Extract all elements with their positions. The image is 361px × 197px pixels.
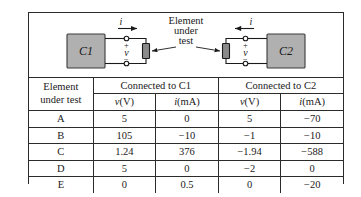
header-unit-c1-current: i(mA) xyxy=(156,94,219,111)
circuit-diagram-panel: C1 + v − i C2 xyxy=(29,13,343,78)
cell-c1-voltage: 105 xyxy=(93,127,156,144)
cell-c2-voltage: 5 xyxy=(218,111,281,128)
cell-c2-voltage: −1.94 xyxy=(218,144,281,161)
current-label-c2: i xyxy=(250,16,253,27)
header-unit-c2-current: i(mA) xyxy=(281,94,343,111)
block-c1-label: C1 xyxy=(79,44,93,58)
cell-c2-current: −588 xyxy=(281,144,343,161)
cell-c2-current: 0 xyxy=(281,160,343,177)
cell-c1-current: 0 xyxy=(156,160,219,177)
cell-c1-voltage: 5 xyxy=(93,111,156,128)
header-unit-c2-voltage: v(V) xyxy=(218,94,281,111)
cell-c1-current: 0.5 xyxy=(156,177,219,193)
figure-container: C1 + v − i C2 xyxy=(0,0,361,197)
cell-c2-current: −70 xyxy=(281,111,343,128)
cell-element: C xyxy=(29,144,93,161)
cell-c2-current: −10 xyxy=(281,127,343,144)
header-group-c1: Connected to C1 xyxy=(93,78,218,94)
leader-line-right xyxy=(196,47,220,51)
cell-c2-current: −20 xyxy=(281,177,343,193)
header-element-line2: under test xyxy=(40,94,81,105)
polarity-minus-c1: − xyxy=(124,54,129,64)
header-unit-c1-voltage: v(V) xyxy=(93,94,156,111)
cell-c1-current: −10 xyxy=(156,127,219,144)
table-row: C1.24376−1.94−588 xyxy=(29,144,343,161)
cell-c1-voltage: 0 xyxy=(93,177,156,193)
unit-paren-i: (mA) xyxy=(177,96,200,107)
element-under-test-label-line3: test xyxy=(179,35,194,46)
cell-element: B xyxy=(29,127,93,144)
unit-paren-v: (V) xyxy=(119,96,134,107)
polarity-minus-c2: − xyxy=(243,54,248,64)
table-row: B105−10−1−10 xyxy=(29,127,343,144)
block-c2-label: C2 xyxy=(279,44,293,58)
cell-c2-voltage: −1 xyxy=(218,127,281,144)
unit-paren-i: (mA) xyxy=(302,96,325,107)
cell-c2-voltage: −2 xyxy=(218,160,281,177)
header-group-c2: Connected to C2 xyxy=(218,78,343,94)
table-row: A505−70 xyxy=(29,111,343,128)
cell-element: E xyxy=(29,177,93,193)
cell-c1-voltage: 5 xyxy=(93,160,156,177)
header-element-under-test: Element under test xyxy=(29,78,93,111)
header-element-line1: Element xyxy=(43,81,78,92)
element-under-test-right xyxy=(223,44,230,59)
current-label-c1: i xyxy=(120,16,123,27)
cell-element: D xyxy=(29,160,93,177)
cell-c1-current: 376 xyxy=(156,144,219,161)
table-header-row-groups: Element under test Connected to C1 Conne… xyxy=(29,78,343,94)
leader-line-left xyxy=(152,47,176,51)
circuit-diagram-svg: C1 + v − i C2 xyxy=(29,13,343,77)
table-head: Element under test Connected to C1 Conne… xyxy=(29,78,343,111)
cell-element: A xyxy=(29,111,93,128)
measurements-table: Element under test Connected to C1 Conne… xyxy=(29,78,343,193)
unit-paren-v: (V) xyxy=(245,96,260,107)
cell-c2-voltage: 0 xyxy=(218,177,281,193)
table-body: A505−70B105−10−1−10C1.24376−1.94−588D50−… xyxy=(29,111,343,193)
cell-c1-current: 0 xyxy=(156,111,219,128)
table-row: E00.50−20 xyxy=(29,177,343,193)
cell-c1-voltage: 1.24 xyxy=(93,144,156,161)
table-row: D50−20 xyxy=(29,160,343,177)
element-under-test-left xyxy=(143,44,150,59)
